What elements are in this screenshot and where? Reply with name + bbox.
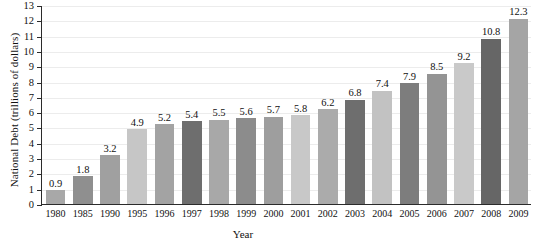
x-axis-tick-label: 1980 [46,208,66,219]
y-axis-tick-label: 4 [29,139,34,149]
bar-value-label: 4.9 [131,117,144,128]
bar-value-label: 7.9 [403,71,416,82]
bar[interactable] [264,117,284,204]
y-axis-tick [37,205,42,206]
bar[interactable] [318,109,338,204]
y-axis-tick-label: 7 [29,93,34,103]
y-axis-tick-label: 12 [24,16,35,26]
bar-group[interactable]: 10.82008 [478,6,505,204]
bar-value-label: 5.2 [158,112,171,123]
x-axis-tick-label: 2006 [427,208,447,219]
bar-value-label: 6.8 [348,87,361,98]
bar-group[interactable]: 7.42004 [369,6,396,204]
bar-series: 0.919801.819853.219904.919955.219965.419… [42,6,531,204]
bar[interactable] [73,176,93,204]
bar[interactable] [427,74,447,204]
y-axis-title: National Debt (trillions of dollars) [8,10,20,210]
bar[interactable] [209,120,229,204]
bar-group[interactable]: 4.91995 [124,6,151,204]
bar-value-label: 7.4 [376,78,389,89]
bar[interactable] [236,118,256,204]
bar[interactable] [481,39,501,204]
x-axis-tick-label: 2005 [399,208,419,219]
x-axis-tick-label: 1999 [236,208,256,219]
bar-value-label: 1.8 [76,164,89,175]
bar[interactable] [100,155,120,204]
x-axis-tick-label: 2009 [508,208,528,219]
bar[interactable] [400,83,420,204]
y-axis-tick-label: 1 [29,185,34,195]
bar-value-label: 10.8 [482,26,500,37]
x-axis-tick-label: 2000 [263,208,283,219]
bar-value-label: 8.5 [430,61,443,72]
y-axis-tick-label: 11 [24,32,34,42]
bar-group[interactable]: 5.61999 [233,6,260,204]
bar-value-label: 5.4 [185,109,198,120]
y-axis-tick-label: 5 [29,123,34,133]
bar-group[interactable]: 8.52006 [423,6,450,204]
x-axis-tick-label: 2007 [454,208,474,219]
bar[interactable] [182,121,202,204]
bar-group[interactable]: 5.51998 [205,6,232,204]
bar-group[interactable]: 9.22007 [450,6,477,204]
x-axis-tick-label: 2002 [318,208,338,219]
y-axis-tick-label: 13 [24,1,35,11]
bar[interactable] [46,190,66,204]
x-axis-tick-label: 1996 [154,208,174,219]
y-axis-tick-label: 6 [29,108,34,118]
bar-group[interactable]: 6.82003 [341,6,368,204]
bar-group[interactable]: 5.72000 [260,6,287,204]
y-axis-tick-label: 9 [29,62,34,72]
y-axis-tick-label: 3 [29,154,34,164]
bar-group[interactable]: 3.21990 [96,6,123,204]
bar-group[interactable]: 5.21996 [151,6,178,204]
y-axis-tick-label: 8 [29,78,34,88]
x-axis-tick-label: 1985 [73,208,93,219]
bar-value-label: 6.2 [321,97,334,108]
bar-group[interactable]: 6.22002 [314,6,341,204]
bar[interactable] [509,19,529,205]
y-axis-tick-label: 2 [29,169,34,179]
bar[interactable] [127,129,147,204]
national-debt-bar-chart: National Debt (trillions of dollars) 012… [0,0,534,244]
x-axis-tick-label: 1990 [100,208,120,219]
x-axis-tick-label: 2008 [481,208,501,219]
bar-value-label: 9.2 [457,51,470,62]
bar-group[interactable]: 1.81985 [69,6,96,204]
bar[interactable] [345,100,365,204]
y-axis-tick-label: 10 [24,47,35,57]
x-axis-title: Year [0,228,534,240]
x-axis-title-text: Year [233,228,253,240]
bar-value-label: 5.8 [294,103,307,114]
bar-value-label: 3.2 [103,143,116,154]
x-axis-tick-label: 2003 [345,208,365,219]
y-axis-tick-label: 0 [29,200,34,210]
x-axis-tick-label: 1997 [182,208,202,219]
x-axis-tick-label: 1995 [127,208,147,219]
bar-value-label: 5.7 [267,104,280,115]
bar-group[interactable]: 5.82001 [287,6,314,204]
x-axis-tick-label: 1998 [209,208,229,219]
plot-area: 012345678910111213 0.919801.819853.21990… [41,6,531,205]
x-axis-tick-label: 2001 [291,208,311,219]
bar[interactable] [454,63,474,204]
bar[interactable] [291,115,311,204]
bar[interactable] [155,124,175,204]
bar-group[interactable]: 12.32009 [505,6,532,204]
bar-value-label: 5.6 [240,106,253,117]
bar[interactable] [372,91,392,204]
bar-value-label: 0.9 [49,178,62,189]
x-axis-tick-label: 2004 [372,208,392,219]
bar-group[interactable]: 7.92005 [396,6,423,204]
bar-value-label: 12.3 [509,6,527,17]
bar-group[interactable]: 5.41997 [178,6,205,204]
bar-value-label: 5.5 [212,107,225,118]
bar-group[interactable]: 0.91980 [42,6,69,204]
